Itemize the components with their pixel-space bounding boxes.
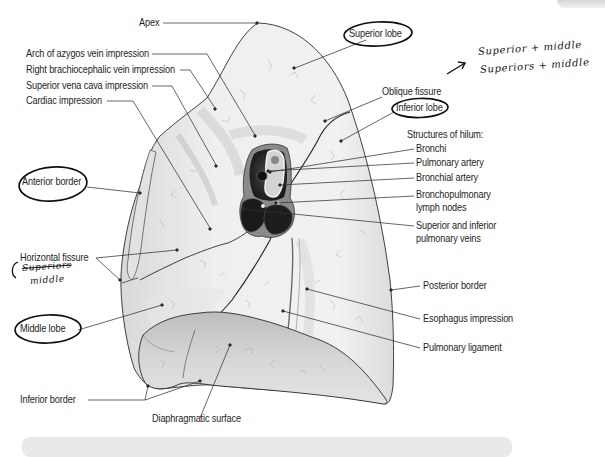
label-inferior-lobe: Inferior lobe xyxy=(396,102,443,114)
label-pulmonary-artery: Pulmonary artery xyxy=(416,157,484,169)
label-middle-lobe: Middle lobe xyxy=(20,323,65,335)
label-pulm-veins-2: pulmonary veins xyxy=(416,233,481,245)
label-esophagus: Esophagus impression xyxy=(423,313,513,325)
label-lymph-nodes-1: Bronchopulmonary xyxy=(416,189,491,201)
label-arch-azygos: Arch of azygos vein impression xyxy=(26,48,149,60)
label-cardiac: Cardiac impression xyxy=(26,95,102,107)
label-apex: Apex xyxy=(139,17,159,29)
label-anterior-border: Anterior border xyxy=(22,176,81,188)
handwritten-arrow xyxy=(447,62,465,74)
caption-bar xyxy=(22,437,512,457)
handwritten-bracket xyxy=(12,262,18,278)
label-pulmonary-ligament: Pulmonary ligament xyxy=(423,342,502,354)
label-svc: Superior vena cava impression xyxy=(26,80,148,92)
label-superior-lobe: Superior lobe xyxy=(349,28,402,40)
label-hilum-heading: Structures of hilum: xyxy=(407,129,483,141)
label-lymph-nodes-2: lymph nodes xyxy=(416,202,467,214)
label-inferior-border: Inferior border xyxy=(20,394,76,406)
label-bronchi: Bronchi xyxy=(416,143,446,155)
label-right-brachiocephalic: Right brachiocephalic vein impression xyxy=(26,64,175,76)
label-posterior-border: Posterior border xyxy=(423,280,487,292)
label-oblique-fissure: Oblique fissure xyxy=(382,86,441,98)
hilum xyxy=(240,144,295,237)
label-pulm-veins-1: Superior and inferior xyxy=(416,220,496,232)
label-diaphragmatic-surface: Diaphragmatic surface xyxy=(152,413,241,425)
label-bronchial-artery: Bronchial artery xyxy=(416,172,478,184)
